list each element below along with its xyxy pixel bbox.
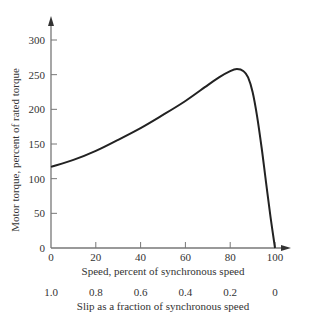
slip-tick-label: 0.4: [179, 286, 193, 298]
torque-speed-chart: 050100150200250300 020406080100 1.00.80.…: [0, 0, 309, 324]
y-tick-label: 0: [40, 242, 46, 254]
x-tick-label: 0: [48, 251, 54, 263]
slip-tick-label: 0: [272, 286, 278, 298]
slip-tick-label: 1.0: [44, 286, 58, 298]
x-tick-label: 80: [225, 251, 237, 263]
x-axis-label: Speed, percent of synchronous speed: [82, 265, 245, 277]
y-tick-label: 100: [29, 173, 46, 185]
slip-tick-label: 0.8: [89, 286, 103, 298]
slip-ticks: 1.00.80.60.40.20: [44, 286, 278, 298]
y-tick-label: 300: [29, 34, 46, 46]
y-tick-label: 200: [29, 103, 46, 115]
y-tick-label: 150: [29, 138, 46, 150]
slip-tick-label: 0.2: [223, 286, 237, 298]
x-tick-label: 60: [180, 251, 192, 263]
y-axis-arrow-icon: [48, 16, 54, 26]
x-tick-label: 20: [90, 251, 102, 263]
y-ticks: 050100150200250300: [29, 34, 58, 254]
secondary-x-axis-label: Slip as a fraction of synchronous speed: [77, 300, 250, 312]
y-tick-label: 50: [34, 207, 46, 219]
x-ticks: 020406080100: [48, 242, 284, 263]
torque-curve: [51, 69, 275, 248]
y-tick-label: 250: [29, 69, 46, 81]
y-axis-label: Motor torque, percent of rated torque: [9, 68, 21, 232]
axes: [48, 16, 291, 251]
slip-tick-label: 0.6: [134, 286, 148, 298]
x-tick-label: 100: [267, 251, 284, 263]
x-tick-label: 40: [135, 251, 147, 263]
